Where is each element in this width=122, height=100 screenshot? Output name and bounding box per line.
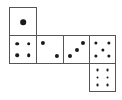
pip-icon bbox=[95, 41, 98, 44]
die-face-1 bbox=[9, 7, 37, 36]
die-face-6 bbox=[89, 63, 116, 92]
pip-icon bbox=[96, 68, 99, 71]
pip-icon bbox=[41, 41, 45, 45]
die-face-2 bbox=[36, 35, 64, 64]
pip-icon bbox=[101, 48, 104, 51]
pip-icon bbox=[107, 55, 110, 58]
die-face-3 bbox=[63, 35, 90, 64]
die-face-5 bbox=[89, 35, 116, 64]
pip-icon bbox=[106, 84, 109, 87]
die-face-4 bbox=[9, 35, 37, 64]
pip-icon bbox=[106, 68, 109, 71]
pip-icon bbox=[96, 76, 99, 79]
pip-icon bbox=[74, 47, 78, 51]
pip-icon bbox=[95, 55, 98, 58]
pip-icon bbox=[15, 54, 19, 58]
pip-icon bbox=[96, 84, 99, 87]
pip-icon bbox=[20, 19, 26, 25]
pip-icon bbox=[107, 41, 110, 44]
pip-icon bbox=[15, 42, 19, 46]
pip-icon bbox=[106, 76, 109, 79]
pip-icon bbox=[27, 54, 31, 58]
pip-icon bbox=[27, 42, 31, 46]
pip-icon bbox=[81, 41, 85, 45]
pip-icon bbox=[68, 54, 72, 58]
pip-icon bbox=[55, 54, 59, 58]
